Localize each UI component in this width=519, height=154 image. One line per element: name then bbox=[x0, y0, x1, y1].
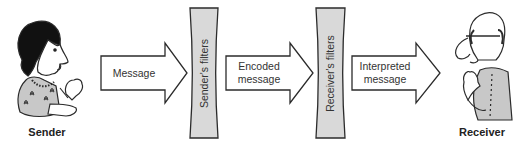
encoded-message-arrow-label: Encoded message bbox=[226, 60, 292, 86]
sender-figure-icon bbox=[18, 21, 83, 116]
receivers-filters-label: Receiver's filters bbox=[324, 24, 337, 124]
message-label-line1: Message bbox=[101, 67, 167, 80]
encoded-label-line2: message bbox=[226, 73, 292, 86]
receiver-label: Receiver bbox=[450, 126, 514, 138]
receiver-figure-icon bbox=[456, 13, 512, 120]
sender-label: Sender bbox=[17, 126, 77, 138]
interpreted-label-line1: Interpreted bbox=[352, 60, 418, 73]
message-arrow-label: Message bbox=[101, 67, 167, 80]
interpreted-message-arrow-label: Interpreted message bbox=[352, 60, 418, 86]
senders-filters-label: Sender's filters bbox=[198, 24, 211, 124]
encoded-label-line1: Encoded bbox=[226, 60, 292, 73]
interpreted-label-line2: message bbox=[352, 73, 418, 86]
